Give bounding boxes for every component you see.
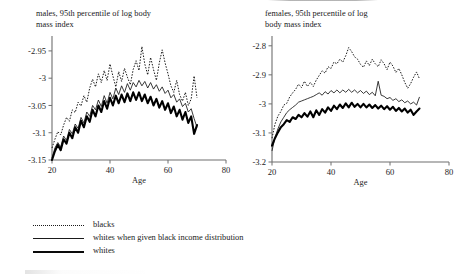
scan-artifact-bottom bbox=[25, 270, 145, 274]
legend-item-whites: whites bbox=[33, 245, 333, 258]
legend-swatch-dotted-line-icon bbox=[33, 225, 84, 226]
x-axis-tick-label: 60 bbox=[386, 167, 395, 177]
y-axis-tick-label: -3.2 bbox=[252, 157, 266, 167]
x-axis-label: Age bbox=[132, 176, 146, 185]
plot-area-females: -2.8-2.9-3-3.1-3.220406080Age bbox=[231, 0, 463, 200]
x-axis-label: Age bbox=[354, 178, 368, 187]
series-line-whites bbox=[272, 103, 420, 146]
y-axis-tick-label: -3.15 bbox=[28, 155, 46, 165]
chart-legend: blacks whites when given black income di… bbox=[33, 219, 333, 258]
chart-panel-females: females, 95th percentile of log body mas… bbox=[231, 0, 463, 200]
scan-artifact-top bbox=[268, 0, 378, 1]
legend-swatch-thick-line-icon bbox=[33, 251, 84, 253]
x-axis-tick-label: 60 bbox=[164, 165, 173, 175]
legend-label-whites-adjusted: whites when given black income distribut… bbox=[93, 232, 244, 244]
series-line-blacks bbox=[272, 48, 420, 139]
legend-label-whites: whites bbox=[93, 245, 115, 257]
y-axis-tick-label: -3 bbox=[39, 73, 46, 83]
series-line-whites-adjusted bbox=[272, 81, 420, 151]
y-axis-tick-label: -2.95 bbox=[28, 46, 46, 56]
y-axis-tick-label: -2.8 bbox=[252, 41, 266, 51]
x-axis-tick-label: 80 bbox=[445, 167, 454, 177]
x-axis-tick-label: 20 bbox=[268, 167, 277, 177]
legend-item-whites-adjusted: whites when given black income distribut… bbox=[33, 232, 333, 245]
x-axis-tick-label: 20 bbox=[48, 165, 57, 175]
y-axis-tick-label: -3 bbox=[259, 99, 266, 109]
y-axis-tick-label: -3.1 bbox=[32, 128, 46, 138]
x-axis-tick-label: 40 bbox=[106, 165, 115, 175]
series-line-whites-adjusted bbox=[52, 80, 197, 157]
y-axis-tick-label: -3.1 bbox=[252, 128, 266, 138]
legend-label-blacks: blacks bbox=[93, 219, 114, 231]
legend-item-blacks: blacks bbox=[33, 219, 333, 232]
series-line-whites bbox=[52, 92, 197, 160]
legend-swatch-thin-line-icon bbox=[33, 238, 84, 239]
x-axis-tick-label: 80 bbox=[222, 165, 231, 175]
x-axis-tick-label: 40 bbox=[327, 167, 336, 177]
chart-panel-males: males, 95th percentile of log body mass … bbox=[0, 0, 232, 200]
y-axis-tick-label: -3.05 bbox=[28, 101, 46, 111]
plot-area-males: -2.95-3-3.05-3.1-3.1520406080Age bbox=[0, 0, 232, 200]
y-axis-tick-label: -2.9 bbox=[252, 70, 266, 80]
